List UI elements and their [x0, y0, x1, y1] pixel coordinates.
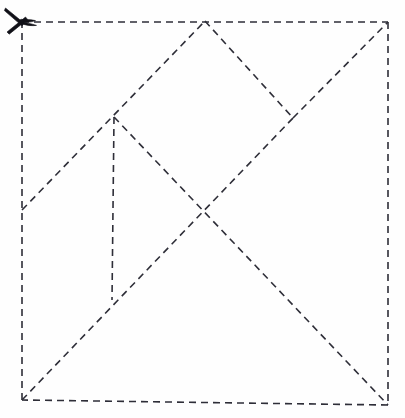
vertical-fold [112, 117, 114, 300]
square-bottom-edge [22, 400, 388, 405]
right-diagonal-to-corner [293, 22, 388, 118]
fold-pattern-canvas [0, 0, 405, 418]
top-right-diagonal-down [205, 21, 293, 118]
main-diagonal-rising [22, 118, 293, 400]
scissors-icon [4, 8, 36, 34]
fold-diagram [0, 0, 405, 418]
